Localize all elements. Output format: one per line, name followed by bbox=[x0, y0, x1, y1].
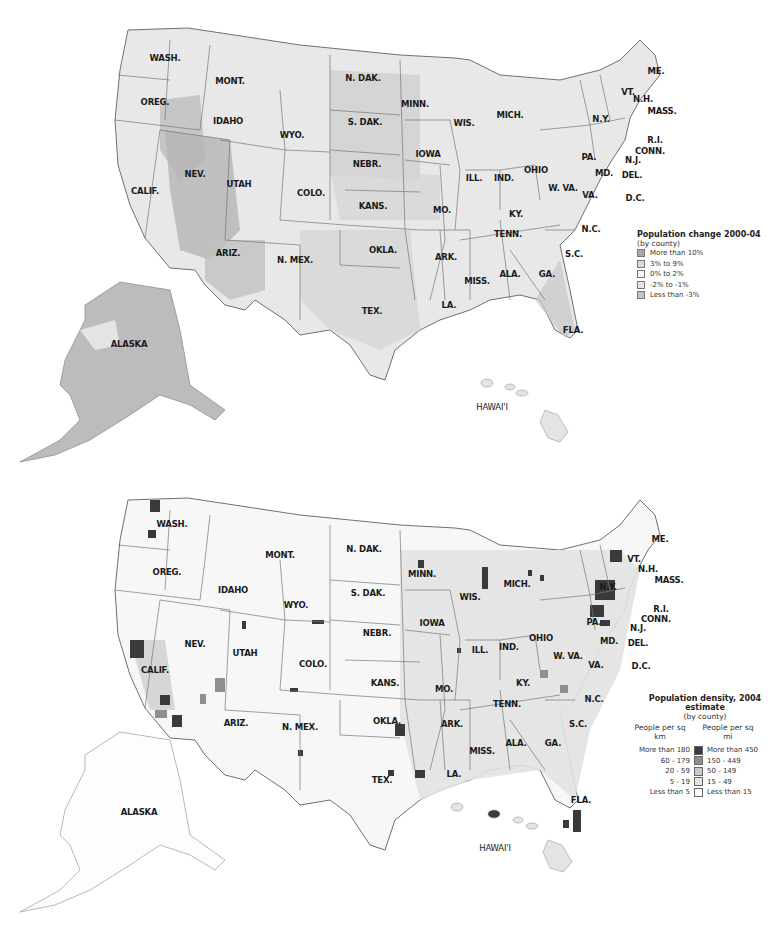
label-sd: S. DAK. bbox=[348, 117, 382, 127]
label-ms: MISS. bbox=[464, 276, 490, 286]
legend-item: 60 - 179150 - 449 bbox=[634, 756, 776, 767]
label-ne: NEBR. bbox=[353, 159, 381, 169]
label-az: ARIZ. bbox=[224, 718, 249, 728]
legend-swatch bbox=[694, 777, 703, 786]
label-oh: OHIO bbox=[529, 633, 553, 643]
label-ks: KANS. bbox=[359, 201, 388, 211]
label-nh: N.H. bbox=[633, 94, 653, 104]
label-la: LA. bbox=[442, 300, 457, 310]
label-wa: WASH. bbox=[156, 519, 187, 529]
legend-col-km: People per sq km bbox=[634, 724, 686, 741]
label-vt: VT. bbox=[621, 87, 635, 97]
population-density-map: WASH. OREG. MONT. N. DAK. MINN. IDAHO S.… bbox=[0, 470, 776, 935]
legend-item: 3% to 9% bbox=[637, 259, 767, 270]
label-mo: MO. bbox=[433, 205, 451, 215]
label-nj: N.J. bbox=[625, 155, 641, 165]
label-me: ME. bbox=[648, 66, 665, 76]
label-va: VA. bbox=[588, 660, 603, 670]
label-ky: KY. bbox=[509, 209, 523, 219]
label-az: ARIZ. bbox=[216, 248, 241, 258]
label-al: ALA. bbox=[505, 738, 526, 748]
label-tx: TEX. bbox=[362, 306, 383, 316]
label-md: MD. bbox=[600, 636, 618, 646]
label-ut: UTAH bbox=[227, 179, 252, 189]
label-or: OREG. bbox=[141, 97, 170, 107]
population-change-map: WASH. OREG. MONT. N. DAK. MINN. IDAHO S.… bbox=[0, 0, 776, 470]
label-ct: CONN. bbox=[641, 614, 671, 624]
label-ak: ALASKA bbox=[111, 339, 148, 349]
label-de: DEL. bbox=[628, 638, 649, 648]
label-nc: N.C. bbox=[581, 224, 600, 234]
legend-population-density: Population density, 2004 estimate (by co… bbox=[634, 694, 776, 798]
legend-title: Population change 2000-04 bbox=[637, 230, 767, 239]
label-fl: FLA. bbox=[563, 325, 583, 335]
hawaii-shape bbox=[451, 803, 572, 872]
label-sc: S.C. bbox=[569, 719, 587, 729]
label-ma: MASS. bbox=[654, 575, 683, 585]
label-nc: N.C. bbox=[584, 694, 603, 704]
label-ar: ARK. bbox=[435, 252, 457, 262]
label-id: IDAHO bbox=[213, 116, 243, 126]
label-ny: N.Y. bbox=[599, 582, 617, 592]
legend-item: 20 - 5950 - 149 bbox=[634, 766, 776, 777]
label-mn: MINN. bbox=[408, 569, 436, 579]
label-wi: WIS. bbox=[453, 118, 474, 128]
label-ok: OKLA. bbox=[369, 245, 397, 255]
legend-col-mi: People per sq mi bbox=[702, 724, 754, 741]
legend-swatch bbox=[637, 249, 645, 257]
label-wy: WYO. bbox=[280, 130, 305, 140]
legend-item: More than 10% bbox=[637, 248, 767, 259]
label-ar: ARK. bbox=[441, 719, 463, 729]
label-fl: FLA. bbox=[571, 795, 591, 805]
label-ca: CALIF. bbox=[131, 186, 159, 196]
label-il: ILL. bbox=[466, 173, 482, 183]
label-dc: D.C. bbox=[632, 661, 651, 671]
legend-swatch bbox=[637, 291, 645, 299]
label-nd: N. DAK. bbox=[346, 544, 381, 554]
label-va: VA. bbox=[582, 190, 597, 200]
label-me: ME. bbox=[652, 534, 669, 544]
label-sc: S.C. bbox=[565, 249, 583, 259]
alaska-shape bbox=[20, 282, 225, 462]
label-ia: IOWA bbox=[415, 149, 440, 159]
label-ga: GA. bbox=[539, 269, 555, 279]
label-ri: R.I. bbox=[653, 604, 669, 614]
label-al: ALA. bbox=[499, 269, 520, 279]
label-co: COLO. bbox=[299, 659, 327, 669]
label-in: IND. bbox=[494, 173, 514, 183]
label-dc: D.C. bbox=[626, 193, 645, 203]
alaska-shape bbox=[20, 732, 225, 912]
legend-title: Population density, 2004 estimate bbox=[634, 694, 776, 712]
label-co: COLO. bbox=[297, 188, 325, 198]
label-ny: N.Y. bbox=[592, 114, 610, 124]
label-ia: IOWA bbox=[419, 618, 444, 628]
label-tn: TENN. bbox=[493, 699, 521, 709]
label-sd: S. DAK. bbox=[351, 588, 385, 598]
label-ky: KY. bbox=[516, 678, 530, 688]
label-wa: WASH. bbox=[149, 53, 180, 63]
label-wv: W. VA. bbox=[548, 183, 578, 193]
legend-item: -2% to -1% bbox=[637, 280, 767, 291]
legend-swatch bbox=[694, 756, 703, 765]
label-nm: N. MEX. bbox=[277, 255, 313, 265]
legend-swatch bbox=[694, 746, 703, 755]
label-pa: PA. bbox=[582, 152, 597, 162]
legend-swatch bbox=[637, 260, 645, 268]
label-or: OREG. bbox=[153, 567, 182, 577]
label-wy: WYO. bbox=[284, 600, 309, 610]
label-wv: W. VA. bbox=[553, 651, 583, 661]
label-ks: KANS. bbox=[371, 678, 400, 688]
label-de: DEL. bbox=[622, 170, 643, 180]
label-nv: NEV. bbox=[185, 169, 206, 179]
label-nm: N. MEX. bbox=[282, 722, 318, 732]
label-nj: N.J. bbox=[630, 623, 646, 633]
label-ak: ALASKA bbox=[121, 807, 158, 817]
label-id: IDAHO bbox=[218, 585, 248, 595]
label-ok: OKLA. bbox=[373, 716, 401, 726]
legend-item: Less than -3% bbox=[637, 290, 767, 301]
label-nv: NEV. bbox=[185, 639, 206, 649]
label-in: IND. bbox=[499, 642, 519, 652]
label-vt: VT. bbox=[627, 554, 641, 564]
legend-population-change: Population change 2000-04 (by county) Mo… bbox=[637, 230, 767, 301]
label-mi: MICH. bbox=[503, 579, 530, 589]
